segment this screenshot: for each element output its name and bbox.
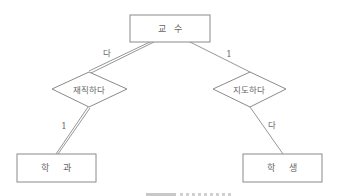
figure-caption-cutoff — [146, 193, 232, 196]
entity-student: 학 생 — [243, 154, 322, 182]
relationship-employed: 재직하다 — [52, 72, 127, 107]
edge-advise-student — [250, 107, 283, 154]
entity-department: 학 과 — [17, 154, 96, 182]
cardinality-professor-advise: 1 — [226, 49, 231, 59]
caption-text-fragment — [180, 193, 232, 196]
edge-professor-employed — [89, 41, 154, 73]
relationship-advise-label: 지도하다 — [233, 85, 265, 95]
er-diagram: 교 수 재직하다 지도하다 학 과 학 생 다 1 1 다 — [0, 0, 338, 196]
edge-professor-advise — [188, 41, 250, 72]
entity-professor: 교 수 — [130, 15, 210, 42]
cardinality-employed-department: 1 — [61, 121, 66, 131]
cardinality-professor-employed: 다 — [103, 48, 111, 58]
relationship-advise: 지도하다 — [213, 72, 286, 107]
entity-student-label: 학 생 — [267, 163, 297, 173]
cardinality-advise-student: 다 — [268, 120, 276, 130]
entity-department-label: 학 과 — [41, 163, 71, 173]
relationship-employed-label: 재직하다 — [73, 85, 105, 95]
entity-professor-label: 교 수 — [158, 24, 183, 34]
caption-label-bar — [146, 193, 176, 196]
